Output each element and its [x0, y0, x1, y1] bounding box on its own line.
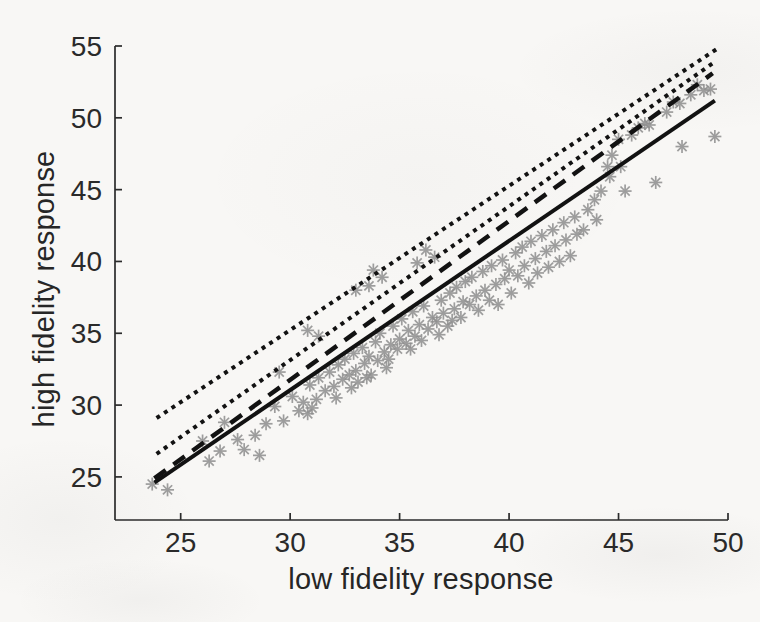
- scatter-marker: [260, 417, 273, 430]
- scatter-marker: [463, 298, 476, 311]
- scatter-marker: [503, 264, 516, 277]
- y-tick-label: 50: [71, 103, 102, 134]
- scatter-marker: [446, 314, 459, 327]
- x-tick-label: 35: [384, 527, 415, 558]
- scatter-marker: [203, 455, 216, 468]
- scatter-marker: [380, 361, 393, 374]
- scatter-marker: [568, 210, 581, 223]
- scatter-marker: [404, 343, 417, 356]
- scatter-marker: [218, 416, 231, 429]
- scatter-marker: [450, 281, 463, 294]
- scatter-marker: [214, 445, 227, 458]
- x-tick-label: 30: [275, 527, 306, 558]
- scatter-marker: [511, 269, 524, 282]
- scatter-marker: [249, 429, 262, 442]
- scatter-marker: [273, 366, 286, 379]
- scatter-marker: [564, 249, 577, 262]
- scatter-marker: [540, 245, 553, 258]
- scatter-marker: [516, 241, 529, 254]
- scatter-marker: [472, 304, 485, 317]
- scatter-marker: [330, 391, 343, 404]
- scatter-marker: [349, 284, 362, 297]
- scatter-marker: [605, 149, 618, 162]
- dashed-fit-line: [154, 73, 712, 478]
- scatter-marker: [485, 259, 498, 272]
- scatter-marker: [238, 443, 251, 456]
- scatter-marker: [619, 185, 632, 198]
- scatter-marker: [465, 271, 478, 284]
- scatter-marker: [422, 322, 435, 335]
- scatter-marker: [371, 354, 384, 367]
- scatter-marker: [522, 277, 535, 290]
- scatter-marker: [553, 255, 566, 268]
- solid-reference-line: [154, 101, 714, 483]
- y-tick-label: 45: [71, 175, 102, 206]
- scatter-markers-layer: [146, 78, 722, 496]
- scatter-marker: [577, 223, 590, 236]
- scatter-marker: [489, 278, 502, 291]
- scatter-marker: [492, 298, 505, 311]
- scatter-marker: [349, 364, 362, 377]
- scatter-marker: [327, 380, 340, 393]
- scatter-marker: [549, 239, 562, 252]
- scatter-marker: [301, 324, 314, 337]
- y-tick-label: 40: [71, 246, 102, 277]
- scatter-marker: [559, 233, 572, 246]
- scatter-marker: [524, 235, 537, 248]
- scatter-marker: [365, 368, 378, 381]
- x-tick-label: 40: [493, 527, 524, 558]
- scatter-marker: [161, 483, 174, 496]
- scatter-marker: [590, 213, 603, 226]
- scatter-marker: [518, 259, 531, 272]
- scatter-marker: [588, 193, 601, 206]
- scatter-marker: [448, 302, 461, 315]
- scatter-marker: [435, 294, 448, 307]
- scatter-marker: [312, 330, 325, 343]
- scatter-marker: [253, 449, 266, 462]
- y-tick-label: 55: [71, 31, 102, 62]
- x-axis-title: low fidelity response: [288, 563, 553, 596]
- scatter-marker: [708, 130, 721, 143]
- scatter-marker: [649, 176, 662, 189]
- scatter-marker: [542, 261, 555, 274]
- scatter-marker: [704, 83, 717, 96]
- scatter-marker: [297, 396, 310, 409]
- scatter-marker: [535, 229, 548, 242]
- scatter-marker: [415, 334, 428, 347]
- scatter-marker: [660, 106, 673, 119]
- scatter-marker: [231, 433, 244, 446]
- scatter-marker: [531, 266, 544, 279]
- x-tick-label: 45: [603, 527, 634, 558]
- scatter-marker: [529, 252, 542, 265]
- scatter-marker: [595, 185, 608, 198]
- trend-lines-layer: [154, 49, 717, 483]
- scatter-marker: [546, 223, 559, 236]
- scatter-marker: [643, 119, 656, 132]
- scatter-marker: [470, 289, 483, 302]
- y-tick-label: 35: [71, 318, 102, 349]
- scatter-marker: [454, 311, 467, 324]
- scatter-marker: [277, 414, 290, 427]
- scatter-marker: [382, 353, 395, 366]
- y-axis-title: high fidelity response: [28, 151, 61, 428]
- scatter-marker: [362, 279, 375, 292]
- x-tick-label: 25: [165, 527, 196, 558]
- scatter-marker: [676, 140, 689, 153]
- x-tick-label: 50: [712, 527, 743, 558]
- scatter-marker: [557, 216, 570, 229]
- dotted-bound-upper: [157, 49, 717, 418]
- scatter-marker: [476, 265, 489, 278]
- y-tick-label: 30: [71, 390, 102, 421]
- scatter-marker: [496, 254, 509, 267]
- scanned-figure-page: 25303540455025303540455055 low fidelity …: [0, 0, 760, 622]
- scatter-marker: [505, 287, 518, 300]
- y-tick-label: 25: [71, 462, 102, 493]
- dotted-bound-lower: [157, 62, 715, 454]
- scatter-marker: [581, 203, 594, 216]
- scatter-marker: [391, 343, 404, 356]
- scatter-plot-canvas: 25303540455025303540455055: [0, 0, 760, 622]
